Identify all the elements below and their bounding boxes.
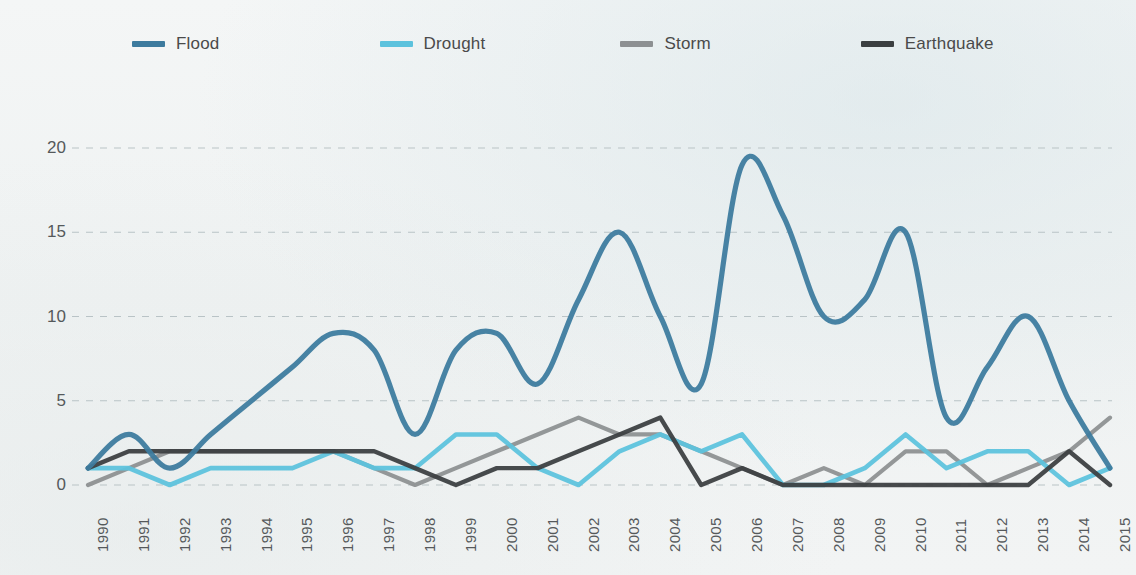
gridlines [72,148,1112,485]
series-lines [88,156,1110,485]
line-chart: FloodDroughtStormEarthquake 05101520 199… [0,0,1136,575]
plot-area [0,0,1136,575]
series-line-flood [88,156,1110,468]
